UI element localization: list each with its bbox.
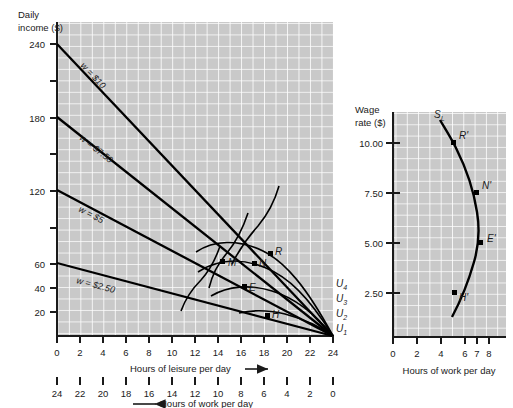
point-marker-R [268, 251, 273, 256]
right-y-axis-title-line2: rate ($) [355, 117, 386, 128]
point-marker-N [252, 261, 257, 266]
curve-label-U1: U1 [336, 323, 347, 336]
right-x-ticks: 0 2 4 6 7 8 [390, 337, 491, 359]
x-ticklabel-L4: 4 [100, 347, 105, 358]
right-y-ticklabel-750: 7.50 [365, 188, 384, 199]
y-ticklabel-240: 240 [29, 39, 45, 50]
point-label-M: M [228, 257, 237, 268]
x-ticklabel-L12: 12 [190, 347, 201, 358]
point-label-R: R [275, 246, 282, 257]
left-x-axis-title-leisure: Hours of leisure per day [130, 363, 231, 374]
left-y-axis-title-line1: Daily [18, 9, 39, 20]
x-ticklabel-W20: 20 [98, 388, 109, 399]
point-label-E: E [249, 282, 256, 293]
point-marker-R-prime [451, 140, 456, 145]
right-x-ticklabel-8: 8 [486, 348, 491, 359]
point-marker-E [242, 284, 247, 289]
right-y-ticklabel-250: 2.50 [365, 288, 384, 299]
right-x-ticklabel-0: 0 [390, 348, 395, 359]
point-label-E-prime: E' [487, 233, 497, 244]
point-label-N-prime: N' [482, 180, 492, 191]
curve-label-U2: U2 [336, 308, 347, 321]
x-ticklabel-L0: 0 [54, 347, 59, 358]
right-y-ticklabel-10: 10.00 [359, 138, 383, 149]
x-ticklabel-L8: 8 [146, 347, 151, 358]
left-x-ticks-work: 24 22 20 18 16 14 12 10 8 6 4 2 0 [52, 377, 336, 399]
point-label-N: N [259, 258, 267, 269]
right-x-ticklabel-7: 7 [474, 348, 479, 359]
x-ticklabel-W18: 18 [121, 388, 132, 399]
x-ticklabel-L16: 16 [236, 347, 247, 358]
point-marker-M [220, 259, 225, 264]
figure-svg: Daily income ($) 240 180 120 60 40 20 [0, 0, 513, 408]
y-ticklabel-20: 20 [34, 307, 45, 318]
x-ticklabel-W0: 0 [330, 388, 335, 399]
indifference-curve-labels: U4 U3 U2 U1 [336, 278, 347, 336]
x-ticklabel-W24: 24 [52, 388, 63, 399]
right-x-ticklabel-2: 2 [414, 348, 419, 359]
right-x-ticklabel-4: 4 [438, 348, 443, 359]
x-ticklabel-W2: 2 [307, 388, 312, 399]
point-label-R-prime: R' [459, 130, 469, 141]
labour-supply-figure: Daily income ($) 240 180 120 60 40 20 [0, 0, 513, 408]
point-marker-H-prime [452, 290, 457, 295]
left-panel: Daily income ($) 240 180 120 60 40 20 [18, 9, 347, 399]
y-ticklabel-180: 180 [29, 113, 45, 124]
point-marker-H [265, 313, 270, 318]
right-y-ticklabel-5: 5.00 [365, 238, 384, 249]
point-marker-E-prime [478, 240, 483, 245]
left-x-axis-title-work: Hours of work per day [160, 398, 253, 408]
point-marker-N-prime [474, 190, 479, 195]
x-ticklabel-W16: 16 [144, 388, 155, 399]
point-label-H-prime: H' [459, 292, 469, 303]
right-x-axis-title: Hours of work per day [403, 365, 496, 376]
x-ticklabel-W6: 6 [261, 388, 266, 399]
x-ticklabel-W22: 22 [75, 388, 86, 399]
x-ticklabel-L10: 10 [167, 347, 178, 358]
right-y-axis-title-line1: Wage [355, 104, 379, 115]
x-ticklabel-L2: 2 [77, 347, 82, 358]
left-y-ticks: 240 180 120 60 40 20 [29, 39, 57, 318]
x-ticklabel-L22: 22 [305, 347, 316, 358]
y-ticklabel-40: 40 [34, 283, 45, 294]
y-ticklabel-120: 120 [29, 186, 45, 197]
x-ticklabel-L6: 6 [123, 347, 128, 358]
right-panel: Wage rate ($) 10.00 7.50 5.00 2.50 SL R'… [355, 104, 506, 376]
point-label-H: H [272, 309, 280, 320]
x-ticklabel-L20: 20 [282, 347, 293, 358]
curve-label-U3: U3 [336, 293, 347, 306]
right-x-ticklabel-6: 6 [462, 348, 467, 359]
x-ticklabel-L18: 18 [259, 347, 270, 358]
x-ticklabel-L24: 24 [328, 347, 339, 358]
right-plot-background [393, 112, 506, 337]
x-ticklabel-W4: 4 [284, 388, 289, 399]
x-ticklabel-L14: 14 [213, 347, 224, 358]
left-y-axis-title-line2: income ($) [18, 22, 63, 33]
y-ticklabel-60: 60 [34, 259, 45, 270]
curve-label-U4: U4 [336, 278, 347, 291]
left-x-ticks-leisure: 0 2 4 6 8 10 12 14 16 18 20 22 24 [54, 336, 338, 358]
